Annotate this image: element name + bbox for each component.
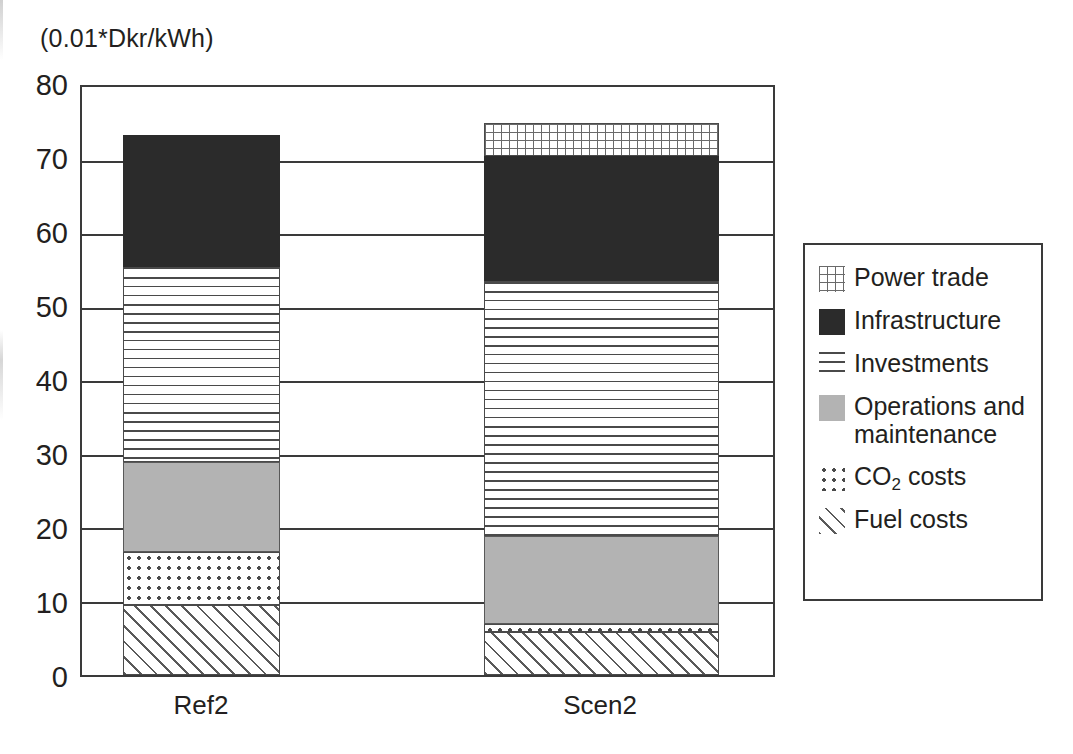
legend: Power trade Infrastructure Investments O… — [803, 243, 1043, 601]
segment-scen2-investments[interactable] — [484, 281, 719, 536]
legend-label-co2-costs: CO2 costs — [854, 462, 966, 490]
legend-label-investments: Investments — [854, 349, 989, 377]
legend-label-operations-and-maintenance: Operations and maintenance — [854, 392, 1025, 448]
legend-item-investments[interactable]: Investments — [819, 349, 1041, 378]
y-tick-40: 40 — [36, 367, 68, 396]
y-tick-20: 20 — [36, 515, 68, 544]
segment-scen2-operations[interactable] — [484, 536, 719, 623]
y-tick-0: 0 — [52, 663, 68, 692]
legend-swatch-investments-icon — [819, 352, 845, 378]
y-tick-30: 30 — [36, 441, 68, 470]
y-tick-50: 50 — [36, 293, 68, 322]
segment-ref2-co2-costs[interactable] — [123, 552, 280, 606]
segment-ref2-operations[interactable] — [123, 462, 280, 552]
legend-item-infrastructure[interactable]: Infrastructure — [819, 306, 1041, 335]
y-axis-unit-caption: (0.01*Dkr/kWh) — [40, 24, 214, 53]
y-tick-10: 10 — [36, 589, 68, 618]
segment-scen2-infrastructure[interactable] — [484, 156, 719, 281]
segment-scen2-fuel-costs[interactable] — [484, 632, 719, 675]
segment-ref2-investments[interactable] — [123, 267, 280, 462]
x-tick-scen2: Scen2 — [563, 690, 637, 721]
bar-scen2[interactable] — [484, 87, 719, 675]
legend-swatch-fuel-costs-icon — [819, 508, 845, 534]
legend-label-power-trade: Power trade — [854, 263, 989, 291]
legend-swatch-operations-icon — [819, 395, 845, 421]
y-axis-tick-labels: 80 70 60 50 40 30 20 10 0 — [0, 85, 68, 677]
bar-ref2[interactable] — [123, 87, 280, 675]
legend-item-power-trade[interactable]: Power trade — [819, 263, 1041, 292]
x-tick-ref2: Ref2 — [174, 690, 229, 721]
legend-item-co2-costs[interactable]: CO2 costs — [819, 462, 1041, 491]
legend-swatch-power-trade-icon — [819, 266, 845, 292]
plot-area — [80, 85, 775, 677]
y-tick-60: 60 — [36, 219, 68, 248]
legend-item-fuel-costs[interactable]: Fuel costs — [819, 505, 1041, 534]
y-tick-80: 80 — [36, 71, 68, 100]
segment-ref2-infrastructure[interactable] — [123, 135, 280, 267]
legend-swatch-co2-costs-icon — [819, 465, 845, 491]
y-tick-70: 70 — [36, 145, 68, 174]
legend-item-operations-and-maintenance[interactable]: Operations and maintenance — [819, 392, 1041, 448]
segment-ref2-fuel-costs[interactable] — [123, 605, 280, 675]
segment-scen2-co2-costs[interactable] — [484, 624, 719, 633]
segment-scen2-power-trade[interactable] — [484, 123, 719, 156]
legend-swatch-infrastructure-icon — [819, 309, 845, 335]
legend-label-fuel-costs: Fuel costs — [854, 505, 968, 533]
stacked-bar-chart: (0.01*Dkr/kWh) 80 70 60 50 40 30 20 10 0 — [0, 0, 1073, 754]
legend-label-infrastructure: Infrastructure — [854, 306, 1001, 334]
